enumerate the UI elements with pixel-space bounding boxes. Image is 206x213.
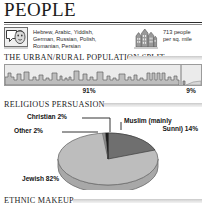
urban-rural-rule [128,56,202,60]
population-density-text: 713 people per sq. mile [163,27,192,43]
urban-rural-divider [5,65,201,85]
urban-rural-chart [4,64,202,86]
speech-bubble-face-icon [4,27,28,49]
ethnic-heading: ETHNIC MAKEUP [4,196,74,205]
title-divider [4,22,202,23]
fact-row: Hebrew, Arabic, Yiddish, German, Russian… [4,27,202,52]
languages-text: Hebrew, Arabic, Yiddish, German, Russian… [33,27,96,50]
pie-svg [56,128,160,190]
fact-languages: Hebrew, Arabic, Yiddish, German, Russian… [4,27,96,50]
city-buildings-icon [134,27,158,49]
page-title: PEOPLE [4,0,76,21]
urban-percent-label: 91% [0,87,178,94]
fact-population-density: 713 people per sq. mile [134,27,192,49]
title-divider-shadow [4,24,202,25]
ethnic-rule [73,199,202,203]
rural-percent-label: 9% [178,87,204,94]
religion-pie-chart [56,128,160,190]
people-page: PEOPLE Hebrew, Arabic, Yiddish, German, … [0,0,206,213]
